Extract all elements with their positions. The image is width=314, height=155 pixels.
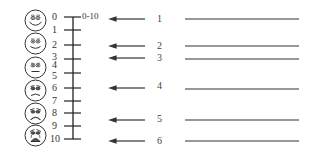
arrow-label-5: 5 [157,114,162,124]
tick-label-5: 5 [52,71,57,81]
tick-label-2: 2 [52,40,57,50]
arrow-label-6: 6 [157,136,162,146]
arrow-label-3: 3 [157,53,162,63]
pain-scale-diagram: 0 1 2 3 4 5 6 7 8 9 10 0-10 1 2 3 4 5 6 [0,0,314,155]
arrow-label-4: 4 [157,81,162,91]
scale-range-label: 0-10 [82,12,99,21]
tick-label-7: 7 [52,96,57,106]
tick-label-8: 8 [52,108,57,118]
tick-label-0: 0 [52,12,57,22]
arrow-label-1: 1 [157,14,162,24]
tick-label-10: 10 [50,134,60,144]
tick-label-1: 1 [52,25,57,35]
tick-label-9: 9 [52,121,57,131]
tick-label-4: 4 [52,60,57,70]
tick-label-6: 6 [52,83,57,93]
arrow-label-2: 2 [157,41,162,51]
